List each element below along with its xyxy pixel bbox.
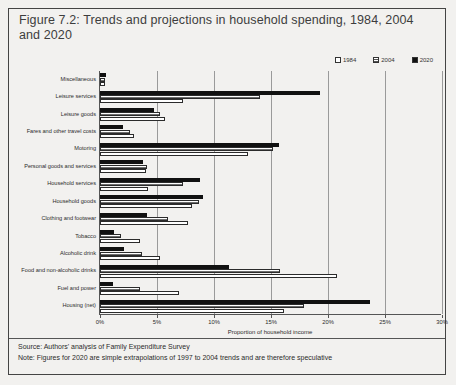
bar-2020 (100, 125, 123, 129)
bar-2020 (100, 247, 124, 251)
bar-2004 (100, 147, 273, 151)
bar-2004 (100, 78, 105, 82)
bar-2004 (100, 269, 280, 273)
x-tick-mark (214, 315, 215, 318)
bar-1984 (100, 256, 160, 260)
legend-item-1984: 1984 (335, 57, 356, 63)
bar-2020 (100, 265, 229, 269)
x-tick-label: 20% (322, 319, 334, 325)
legend-label-1984: 1984 (343, 57, 356, 63)
page-title: Figure 7.2: Trends and projections in ho… (19, 13, 429, 43)
bar-1984 (100, 274, 337, 278)
category-label: Miscellaneous (61, 77, 100, 83)
chart-legend: 1984 2004 2020 (335, 57, 433, 63)
category-label: Household services (47, 181, 100, 187)
grid-line (385, 71, 386, 314)
bar-2020 (100, 73, 106, 77)
x-tick-mark (100, 315, 101, 318)
bar-1984 (100, 291, 179, 295)
x-tick-mark (385, 315, 386, 318)
footer-source: Source: Authors' analysis of Family Expe… (18, 342, 438, 353)
bar-2004 (100, 287, 140, 291)
bar-2020 (100, 300, 370, 304)
bar-2004 (100, 217, 168, 221)
category-label: Household goods (52, 199, 100, 205)
legend-swatch-2004 (373, 57, 379, 63)
grid-line (442, 71, 443, 314)
bar-1984 (100, 169, 146, 173)
bar-2020 (100, 108, 154, 112)
category-label: Leisure services (56, 94, 100, 100)
bar-2004 (100, 95, 260, 99)
bar-1984 (100, 82, 105, 86)
category-label: Clothing and footwear (42, 216, 100, 222)
figure-frame: Figure 7.2: Trends and projections in ho… (8, 8, 446, 375)
category-label: Motoring (74, 146, 100, 152)
legend-label-2004: 2004 (381, 57, 394, 63)
x-tick-mark (328, 315, 329, 318)
bar-1984 (100, 309, 284, 313)
bar-2020 (100, 178, 200, 182)
x-tick-mark (157, 315, 158, 318)
x-tick-mark (442, 315, 443, 318)
legend-item-2020: 2020 (412, 57, 433, 63)
bar-1984 (100, 117, 165, 121)
category-label: Fuel and power (57, 286, 100, 292)
bar-1984 (100, 221, 188, 225)
bar-2004 (100, 130, 130, 134)
x-tick-label: 25% (379, 319, 391, 325)
bar-2004 (100, 112, 160, 116)
bar-2020 (100, 143, 279, 147)
x-tick-label: 0% (96, 319, 104, 325)
category-label: Tobacco (75, 234, 100, 240)
bar-2020 (100, 213, 147, 217)
chart-plot-area: MiscellaneousLeisure servicesLeisure goo… (99, 71, 441, 315)
x-axis-title: Proportion of household income (99, 329, 441, 335)
category-label: Food and non-alcoholic drinks (21, 268, 100, 274)
bar-1984 (100, 204, 192, 208)
bar-2004 (100, 252, 142, 256)
bar-1984 (100, 152, 248, 156)
bar-2020 (100, 91, 320, 95)
category-label: Fares and other travel costs (27, 129, 100, 135)
bar-2004 (100, 234, 121, 238)
bar-1984 (100, 99, 183, 103)
x-tick-label: 15% (265, 319, 277, 325)
footer-note: Note: Figures for 2020 are simple extrap… (18, 353, 438, 364)
figure-footer: Source: Authors' analysis of Family Expe… (18, 342, 438, 363)
bar-2004 (100, 304, 304, 308)
x-tick-label: 10% (208, 319, 220, 325)
bar-2020 (100, 160, 143, 164)
bar-2020 (100, 195, 203, 199)
legend-item-2004: 2004 (373, 57, 394, 63)
x-tick-mark (271, 315, 272, 318)
legend-swatch-1984 (335, 57, 341, 63)
x-tick-label: 30% (436, 319, 448, 325)
category-label: Leisure goods (61, 112, 100, 118)
footer-divider (9, 338, 445, 339)
bar-1984 (100, 239, 140, 243)
x-tick-label: 5% (153, 319, 161, 325)
category-label: Housing (net) (62, 303, 100, 309)
legend-label-2020: 2020 (420, 57, 433, 63)
bar-1984 (100, 187, 148, 191)
legend-swatch-2020 (412, 57, 418, 63)
category-label: Personal goods and services (24, 164, 100, 170)
bar-1984 (100, 134, 134, 138)
bar-2004 (100, 182, 183, 186)
bar-2020 (100, 230, 114, 234)
bar-2004 (100, 165, 147, 169)
bar-2004 (100, 200, 199, 204)
category-label: Alcoholic drink (60, 251, 100, 257)
bar-2020 (100, 282, 113, 286)
